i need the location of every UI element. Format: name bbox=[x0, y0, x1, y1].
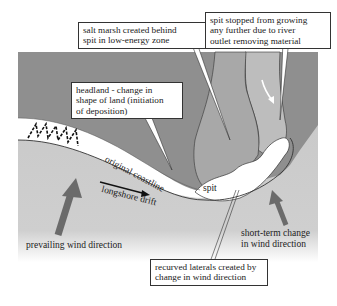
callout-line: of deposition) bbox=[76, 106, 178, 116]
prevailing-wind-label: prevailing wind direction bbox=[26, 240, 122, 251]
callout-line: shape of land (initiation bbox=[76, 95, 178, 105]
callout-line: outlet removing material bbox=[210, 36, 326, 46]
label-line: short-term change bbox=[241, 228, 310, 239]
callout-line: headland - change in bbox=[76, 85, 178, 95]
short-term-change-label: short-term change in wind direction bbox=[241, 228, 310, 249]
label-line: in wind direction bbox=[241, 239, 310, 250]
spit-stopped-callout: spit stopped from growing any further du… bbox=[205, 12, 331, 49]
headland-callout: headland - change in shape of land (init… bbox=[71, 82, 183, 119]
callout-line: change in wind direction bbox=[155, 272, 263, 282]
callout-line: recurved laterals created by bbox=[155, 262, 263, 272]
spit-label: spit bbox=[203, 183, 217, 194]
callout-line: salt marsh created behind bbox=[83, 25, 203, 35]
recurved-laterals-callout: recurved laterals created by change in w… bbox=[150, 259, 268, 286]
callout-line: any further due to river bbox=[210, 25, 326, 35]
salt-marsh-callout: salt marsh created behind spit in low-en… bbox=[78, 22, 208, 49]
callout-line: spit in low-energy zone bbox=[83, 35, 203, 45]
callout-line: spit stopped from growing bbox=[210, 15, 326, 25]
